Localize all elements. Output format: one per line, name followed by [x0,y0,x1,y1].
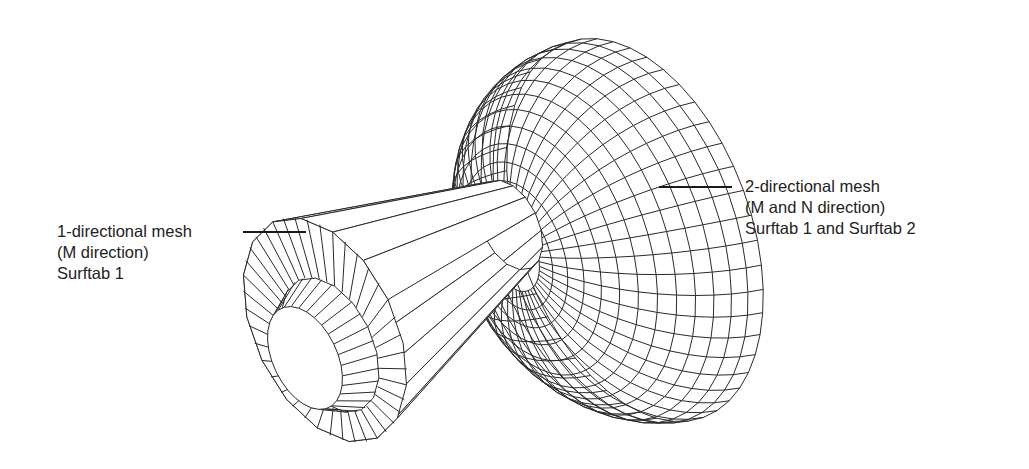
right-mesh-label: 2-directional mesh (M and N direction) S… [745,176,916,239]
left-label-title: 1-directional mesh [57,221,192,242]
left-mesh-label: 1-directional mesh (M direction) Surftab… [57,221,192,284]
right-label-title: 2-directional mesh [745,176,916,197]
left-label-surftab: Surftab 1 [57,263,192,284]
right-label-surftab: Surftab 1 and Surftab 2 [745,218,916,239]
left-label-direction: (M direction) [57,242,192,263]
one-directional-cone-mesh [243,180,542,442]
right-label-direction: (M and N direction) [745,197,916,218]
